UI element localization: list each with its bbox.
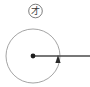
diagram-canvas: 才 (0, 0, 90, 87)
figure-root: 才 (0, 0, 90, 87)
canvas-background (0, 0, 90, 87)
badge-character-label: 才 (31, 5, 40, 16)
center-point-dot (31, 54, 36, 59)
